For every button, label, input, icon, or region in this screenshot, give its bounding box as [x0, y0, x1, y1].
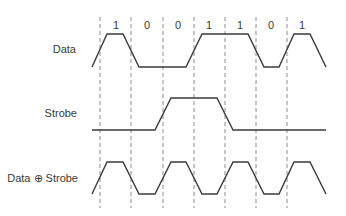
- bit-label-2: 0: [175, 19, 181, 31]
- waveforms: [92, 34, 326, 194]
- timing-diagram: 1 0 0 1 1 0 1 Data Strobe Data ⊕ Strobe: [0, 0, 346, 216]
- bit-label-5: 0: [268, 19, 274, 31]
- waveform-data-xor-strobe: [92, 162, 326, 194]
- signal-label-data-xor-strobe: Data ⊕ Strobe: [7, 172, 78, 184]
- bit-label-0: 1: [113, 19, 119, 31]
- bit-label-4: 1: [237, 19, 243, 31]
- bit-label-1: 0: [144, 19, 150, 31]
- bit-label-3: 1: [206, 19, 212, 31]
- waveform-data: [92, 34, 326, 67]
- waveform-strobe: [92, 98, 326, 130]
- signal-label-strobe: Strobe: [45, 107, 77, 119]
- bit-labels: 1 0 0 1 1 0 1: [113, 19, 305, 31]
- signal-label-data: Data: [53, 43, 77, 55]
- signal-labels: Data Strobe Data ⊕ Strobe: [7, 43, 78, 184]
- bit-label-6: 1: [299, 19, 305, 31]
